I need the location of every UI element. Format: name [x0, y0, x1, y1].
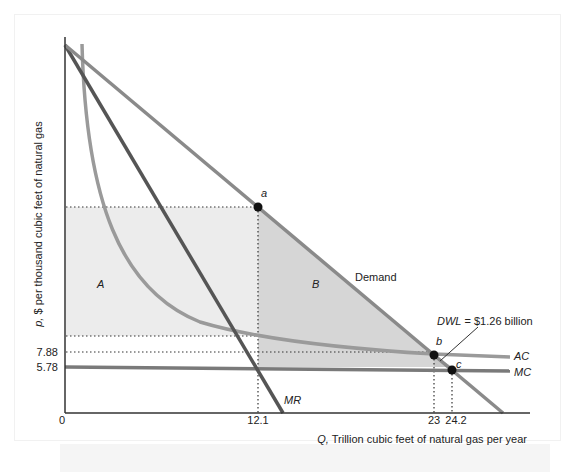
label-mc: MC	[514, 366, 531, 378]
region-a	[66, 207, 258, 336]
label-point-a: a	[261, 187, 267, 199]
label-ac: AC	[513, 350, 529, 362]
x-axis-title: Q, Trillion cubic feet of natural gas pe…	[317, 433, 527, 445]
label-demand: Demand	[355, 271, 397, 283]
y-axis-title: p, $ per thousand cubic feet of natural …	[32, 121, 44, 328]
x-tick-23: 23	[428, 414, 440, 426]
x-axis-desc: Trillion cubic feet of natural gas per y…	[329, 433, 527, 445]
label-region-a: A	[96, 278, 104, 290]
dwl-annotation: DWL = $1.26 billion	[437, 315, 533, 327]
x-axis-var: Q,	[317, 433, 329, 445]
point-a	[254, 203, 263, 212]
y-axis-var: p,	[32, 318, 44, 328]
point-b	[430, 351, 439, 360]
mc-curve	[65, 367, 510, 371]
x-tick-24-2: 24.2	[445, 414, 466, 426]
monopoly-chart: a b c A B Demand MR AC MC DWL = $1.26 bi…	[0, 0, 563, 472]
y-axis-desc: $ per thousand cubic feet of natural gas	[32, 121, 44, 318]
label-mr: MR	[284, 394, 301, 406]
dwl-label-value: = $1.26 billion	[461, 315, 532, 327]
dwl-label-italic: DWL	[437, 315, 461, 327]
y-tick-7-88: 7.88	[37, 346, 58, 358]
label-point-b: b	[436, 335, 442, 347]
label-point-c: c	[456, 358, 462, 370]
x-tick-0: 0	[59, 414, 65, 426]
label-region-b: B	[312, 278, 319, 290]
y-tick-5-78: 5.78	[37, 361, 58, 373]
x-tick-12-1: 12.1	[247, 414, 268, 426]
